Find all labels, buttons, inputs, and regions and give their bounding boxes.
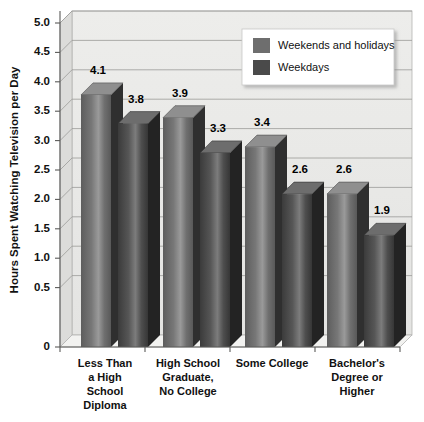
bar-front-face [245,147,275,347]
category-label-2-line-3: No College [159,385,216,397]
bar-weekdays-high-school-graduate[interactable] [200,141,242,347]
category-label-2-line-1: High School [156,357,220,369]
category-label-2-line-2: Graduate, [162,371,213,383]
y-tick-label-3-5: 3.5 [34,104,51,116]
y-tick-label-0: 0 [44,340,50,352]
bar-front-face [81,95,111,347]
x-axis-category-labels: Less Than a High School Diploma High Sch… [78,357,385,411]
category-label-3-line-1: Some College [236,357,309,369]
bar-front-face [364,235,394,347]
bar-side-face [394,223,406,347]
plot-left-wall [60,11,72,347]
bar-weekends-some-college[interactable] [245,135,287,347]
category-label-1-line-2: a High [88,371,122,383]
bar-side-face [148,112,160,347]
bar-weekends-bachelors-degree[interactable] [327,182,369,347]
bar-value-label-weekends-4: 2.6 [336,163,352,175]
bar-front-face [200,153,230,347]
bar-front-face [327,194,357,347]
bar-value-label-weekends-1: 4.1 [90,64,107,76]
x-axis: Less Than a High School Diploma High Sch… [60,347,400,411]
legend-label-weekends: Weekends and holidays [278,39,395,51]
category-label-1-line-4: Diploma [83,399,127,411]
y-tick-label-1-0: 1.0 [34,251,50,263]
chart-canvas: 5.0 4.5 4.0 3.5 3.0 2.5 2.0 1.5 1.0 0.5 … [0,0,424,422]
legend-item-weekdays[interactable]: Weekdays [253,60,330,75]
bar-value-label-weekends-2: 3.9 [172,87,188,99]
category-label-1-line-1: Less Than [78,357,133,369]
category-label-1-line-3: School [87,385,124,397]
y-tick-label-5-0: 5.0 [34,16,50,28]
bar-weekdays-some-college[interactable] [282,182,324,347]
bar-front-face [163,118,193,347]
y-axis-ticks [55,23,60,347]
legend-background [242,29,394,85]
x-axis-ticks [60,347,400,352]
bar-side-face [312,182,324,347]
bar-weekdays-less-than-high-school[interactable] [118,112,160,347]
chart-legend[interactable] [242,29,394,85]
y-tick-label-4-5: 4.5 [34,45,51,57]
category-label-4-line-2: Degree or [331,371,383,383]
tv-viewing-bar-chart: 5.0 4.5 4.0 3.5 3.0 2.5 2.0 1.5 1.0 0.5 … [0,0,424,422]
y-tick-label-0-5: 0.5 [34,281,51,293]
bar-value-label-weekdays-2: 3.3 [210,122,226,134]
y-tick-label-2-0: 2.0 [34,192,50,204]
legend-swatch-weekdays [253,60,270,75]
y-tick-label-2-5: 2.5 [34,163,51,175]
legend-swatch-weekends [253,38,270,53]
category-label-4-line-3: Higher [340,385,376,397]
bar-weekdays-bachelors-degree[interactable] [364,223,406,347]
bar-weekends-less-than-high-school[interactable] [81,83,123,347]
bar-value-label-weekdays-4: 1.9 [374,204,390,216]
category-label-4-line-1: Bachelor's [329,357,385,369]
legend-label-weekdays: Weekdays [278,61,330,73]
y-tick-label-3-0: 3.0 [34,134,50,146]
bar-value-label-weekends-3: 3.4 [254,116,271,128]
bar-weekends-high-school-graduate[interactable] [163,106,205,347]
bar-side-face [230,141,242,347]
bar-front-face [118,124,148,347]
bar-value-label-weekdays-1: 3.8 [128,93,145,105]
y-axis-title: Hours Spent Watching Television per Day [8,66,20,293]
y-axis: 5.0 4.5 4.0 3.5 3.0 2.5 2.0 1.5 1.0 0.5 … [8,11,60,352]
y-tick-label-1-5: 1.5 [34,222,51,234]
bar-value-label-weekdays-3: 2.6 [292,163,308,175]
y-tick-label-4-0: 4.0 [34,75,50,87]
bar-front-face [282,194,312,347]
